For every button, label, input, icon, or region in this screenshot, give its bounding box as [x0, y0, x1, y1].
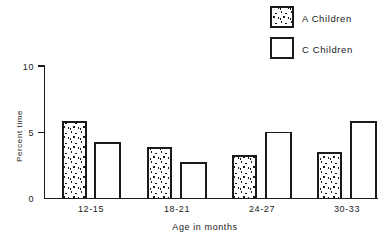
- chart-canvas: A Children C Children 10 5 0 Percent tim…: [0, 0, 387, 237]
- white-swatch-icon: [271, 38, 293, 58]
- x-label-12-15: 12-15: [78, 204, 104, 214]
- bar-a-18-21: [148, 148, 171, 199]
- chart-background: [0, 0, 387, 237]
- x-label-18-21: 18-21: [164, 204, 190, 214]
- bar-a-12-15: [63, 122, 86, 199]
- legend-label-a-children: A Children: [302, 13, 352, 24]
- bar-a-30-33: [318, 153, 341, 199]
- legend-label-c-children: C Children: [302, 44, 353, 55]
- dotted-swatch-icon: [271, 7, 293, 27]
- bar-chart-figure: A Children C Children 10 5 0 Percent tim…: [0, 0, 387, 237]
- bar-c-12-15: [95, 143, 120, 199]
- x-label-24-27: 24-27: [249, 204, 275, 214]
- y-tick-label-10: 10: [23, 62, 34, 72]
- bar-a-24-27: [233, 156, 256, 199]
- x-axis-title: Age in months: [172, 222, 237, 232]
- y-tick-label-5: 5: [28, 128, 34, 138]
- y-tick-label-0: 0: [28, 194, 34, 204]
- bar-c-18-21: [181, 163, 206, 199]
- bar-c-24-27: [266, 133, 291, 199]
- bar-c-30-33: [351, 122, 376, 199]
- x-label-30-33: 30-33: [334, 204, 360, 214]
- y-axis-title: Percent time: [15, 110, 24, 162]
